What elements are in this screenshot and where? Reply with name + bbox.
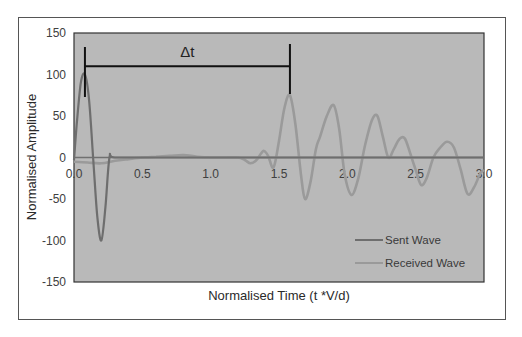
x-tick-label: 0.5 <box>134 167 151 181</box>
y-tick-label: 150 <box>46 26 66 40</box>
y-tick-label: 0 <box>59 151 66 165</box>
y-tick-label: -100 <box>42 234 66 248</box>
y-tick-label: 50 <box>53 109 67 123</box>
x-tick-label: 0.0 <box>66 167 83 181</box>
y-tick-label: -50 <box>49 192 67 206</box>
x-axis-title: Normalised Time (t *V/d) <box>208 288 350 303</box>
y-axis-title: Normalised Amplitude <box>24 94 39 220</box>
y-tick-label: -150 <box>42 275 66 289</box>
delta-t-label: Δt <box>180 43 195 60</box>
x-tick-label: 1.0 <box>202 167 219 181</box>
legend-label-received: Received Wave <box>385 257 465 269</box>
y-tick-label: 100 <box>46 68 66 82</box>
x-tick-label: 2.0 <box>339 167 356 181</box>
legend-label-sent: Sent Wave <box>385 234 441 246</box>
chart: 150100500-50-100-150 0.00.51.01.52.02.53… <box>0 0 522 337</box>
